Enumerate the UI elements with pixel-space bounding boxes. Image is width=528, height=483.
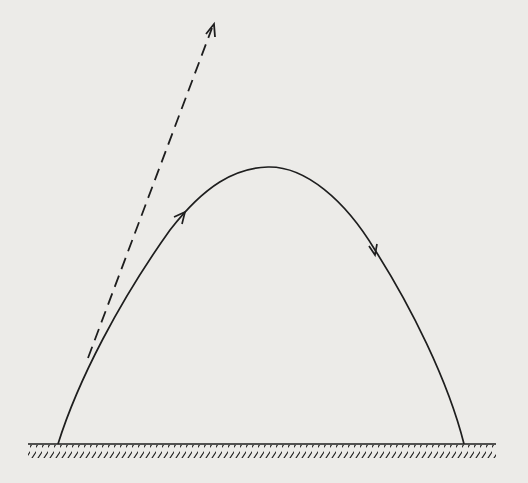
ground-hatching bbox=[28, 445, 496, 458]
projectile-diagram: Projectile trajectory with initial veloc… bbox=[0, 0, 528, 483]
trajectory-curve bbox=[58, 167, 464, 444]
ground bbox=[28, 444, 496, 458]
velocity-vector-dashed-line bbox=[88, 28, 212, 358]
